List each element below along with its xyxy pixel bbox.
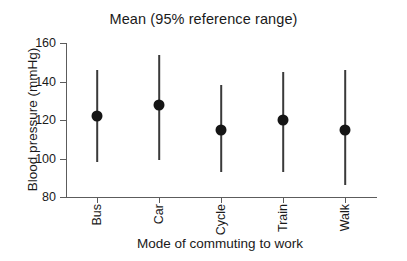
y-tick-mark [60,120,66,121]
mean-point-walk [340,124,351,135]
y-tick-label: 160 [24,36,56,50]
x-tick-label-text: Train [276,204,290,232]
y-tick-mark [60,82,66,83]
y-tick-label: 80 [24,190,56,204]
x-tick-label-text: Car [152,204,166,224]
x-tick-label-text: Cycle [214,204,228,235]
mean-point-train [278,115,289,126]
x-tick-mark [97,198,98,203]
x-tick-mark [345,198,346,203]
y-tick-mark [60,43,66,44]
mean-point-car [154,99,165,110]
y-tick-label: 100 [24,152,56,166]
chart-page: Mean (95% reference range) Blood pressur… [0,0,407,261]
y-tick-mark [60,159,66,160]
x-axis-label: Mode of commuting to work [60,236,380,251]
x-tick-label-text: Bus [90,204,104,226]
x-tick-mark [159,198,160,203]
y-tick-label: 120 [24,113,56,127]
x-tick-label-text: Walk [338,204,352,231]
x-tick-mark [221,198,222,203]
mean-point-cycle [216,124,227,135]
y-axis-line [66,43,67,198]
x-tick-mark [283,198,284,203]
mean-point-bus [92,111,103,122]
y-tick-label: 140 [24,75,56,89]
y-tick-mark [60,197,66,198]
chart-title: Mean (95% reference range) [0,11,407,27]
